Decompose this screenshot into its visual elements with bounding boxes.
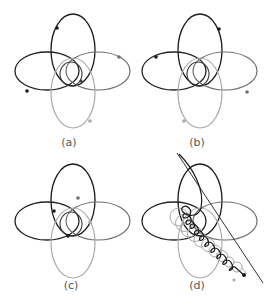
panel-label-d: (d) [189,279,205,292]
panel-label-c: (c) [64,279,79,292]
body-dot [76,196,80,200]
panel-label-b: (b) [189,136,205,149]
escaping-body-dot [242,273,246,277]
body-dot [217,27,221,31]
panel-d: (d) [142,153,263,292]
body-dot [88,220,92,224]
body-dot [88,119,92,123]
figure-canvas: (a) (b) (c) [0,0,276,301]
body-dot [55,26,59,30]
panel-b: (b) [142,14,257,149]
panel-a: (a) [15,14,130,149]
body-dot [25,89,29,93]
body-dot [117,55,121,59]
body-dot [154,55,158,59]
panel-c: (c) [15,164,130,292]
spiral-dark [179,154,245,276]
escape-trajectory-line [177,153,263,283]
body-dot [66,234,70,238]
body-dot [80,80,83,83]
body-dot [233,279,236,282]
panel-label-a: (a) [61,136,76,149]
body-dot [245,90,249,94]
body-dot [52,209,56,213]
body-dot [182,119,186,123]
